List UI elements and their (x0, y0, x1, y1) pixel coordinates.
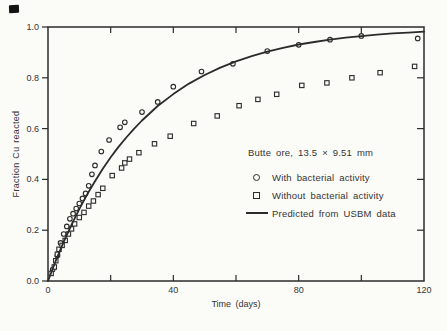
data-point-circle (68, 217, 73, 222)
data-point-square (378, 71, 382, 75)
data-point-square (127, 157, 131, 161)
legend-title: Butte ore, 13.5 × 9.51 mm (248, 147, 396, 158)
data-point-circle (93, 163, 98, 168)
y-tick-label: 0.6 (26, 124, 39, 134)
data-point-circle (65, 224, 70, 229)
data-point-circle (118, 125, 123, 130)
square-marker-icon (253, 192, 260, 199)
y-tick-label: 0.4 (26, 174, 39, 184)
x-tick-label: 80 (294, 285, 304, 295)
data-point-square (256, 97, 260, 101)
x-tick-label: 120 (416, 285, 431, 295)
data-point-square (87, 204, 91, 208)
x-tick-label: 40 (168, 285, 178, 295)
legend-marker-cell (246, 212, 272, 214)
legend-label: Without bacterial activity (272, 190, 384, 201)
y-tick-label: 0.0 (26, 276, 39, 286)
legend-label: With bacterial activity (272, 172, 370, 183)
data-point-circle (71, 211, 76, 216)
figure: 040801200.00.20.40.60.81.0 Fraction Cu r… (0, 0, 447, 331)
legend-item-without-bacterial: Without bacterial activity (246, 188, 396, 202)
data-point-square (137, 151, 141, 155)
data-point-square (110, 173, 114, 177)
data-point-square (350, 76, 354, 80)
x-tick-label: 0 (45, 285, 50, 295)
data-point-circle (99, 149, 104, 154)
legend: Butte ore, 13.5 × 9.51 mm With bacterial… (246, 147, 396, 220)
data-point-circle (107, 138, 112, 143)
circle-marker-icon (253, 174, 260, 181)
legend-item-predicted: Predicted from USBM data (246, 206, 396, 220)
data-point-square (77, 215, 81, 219)
line-marker-icon (246, 212, 268, 214)
data-point-square (119, 166, 123, 170)
data-point-circle (90, 172, 95, 177)
legend-marker-cell (246, 192, 272, 199)
data-point-square (412, 64, 416, 68)
data-point-square (82, 210, 86, 214)
data-point-square (123, 161, 127, 165)
y-tick-label: 0.8 (26, 73, 39, 83)
legend-item-with-bacterial: With bacterial activity (246, 170, 396, 184)
data-point-square (215, 114, 219, 118)
data-point-square (300, 83, 304, 87)
data-point-circle (415, 36, 420, 41)
data-point-square (168, 134, 172, 138)
y-tick-label: 1.0 (26, 22, 39, 32)
data-point-circle (199, 69, 204, 74)
data-point-square (325, 81, 329, 85)
legend-label: Predicted from USBM data (272, 208, 396, 219)
data-point-square (237, 104, 241, 108)
legend-marker-cell (246, 174, 272, 181)
data-point-square (192, 121, 196, 125)
data-point-circle (61, 232, 66, 237)
data-point-square (152, 142, 156, 146)
y-tick-label: 0.2 (26, 225, 39, 235)
data-point-circle (171, 84, 176, 89)
data-point-square (101, 186, 105, 190)
data-point-circle (155, 100, 160, 105)
x-axis-title: Time (days) (211, 299, 260, 309)
data-point-circle (140, 110, 145, 115)
data-point-square (91, 199, 95, 203)
data-point-square (96, 192, 100, 196)
y-axis-title: Fraction Cu reacted (11, 111, 21, 198)
data-point-square (275, 92, 279, 96)
data-point-circle (123, 120, 128, 125)
